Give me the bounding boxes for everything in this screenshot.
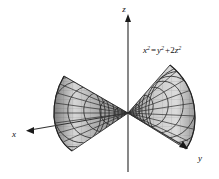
equation-annotation: x2=y2+2z2 bbox=[142, 45, 181, 55]
x-axis-arrowhead bbox=[26, 127, 34, 134]
cone-surface-diagram: z x y x2=y2+2z2 bbox=[0, 0, 219, 179]
x-axis-label: x bbox=[11, 129, 16, 139]
eq-y-exponent: 2 bbox=[161, 45, 164, 51]
eq-equals: = bbox=[151, 45, 156, 55]
eq-z-exponent: 2 bbox=[178, 45, 181, 51]
y-axis-label: y bbox=[197, 153, 202, 163]
equation-text: x2=y2+2z2 bbox=[142, 45, 181, 55]
cone-nappe-left bbox=[18, 64, 128, 159]
z-axis bbox=[125, 14, 131, 172]
z-axis-label: z bbox=[121, 4, 126, 14]
eq-x-exponent: 2 bbox=[147, 45, 150, 51]
z-axis-arrowhead bbox=[125, 14, 131, 22]
cone-nappe-right bbox=[128, 59, 219, 155]
left-nappe-texture bbox=[54, 76, 128, 151]
math-figure-canvas: z x y x2=y2+2z2 bbox=[0, 0, 219, 179]
